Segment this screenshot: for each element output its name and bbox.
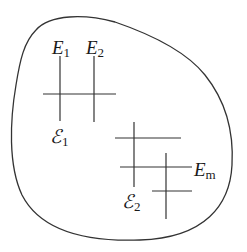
label-cal-e1: ℰ1	[50, 126, 69, 149]
label-em: Em	[193, 159, 216, 182]
label-cal-e2: ℰ2	[122, 191, 141, 214]
diagram-canvas: E1 E2 ℰ1 Em ℰ2	[0, 0, 247, 252]
label-e1: E1	[51, 37, 70, 60]
label-e2: E2	[85, 37, 104, 60]
diagram-svg: E1 E2 ℰ1 Em ℰ2	[0, 0, 247, 252]
line-system-1	[43, 56, 116, 122]
